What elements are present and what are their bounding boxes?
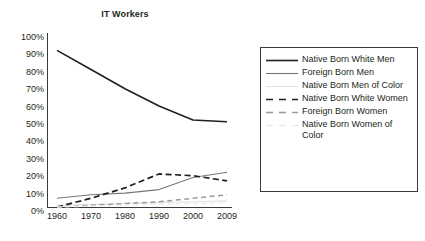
y-tick-label: 10% <box>0 190 44 199</box>
x-tick-label: 1980 <box>115 211 135 221</box>
legend-line-swatch <box>265 54 299 66</box>
x-tick-label: 2009 <box>217 211 237 221</box>
series-line <box>57 172 227 198</box>
y-tick-label: 90% <box>0 50 44 59</box>
legend-item[interactable]: Foreign Born Women <box>265 106 413 118</box>
legend-line-swatch <box>265 67 299 79</box>
legend-line-swatch <box>265 80 299 92</box>
series-line <box>57 50 227 121</box>
legend-line-swatch <box>265 93 299 105</box>
legend-line-swatch <box>265 106 299 118</box>
legend-item-label: Foreign Born Women <box>302 106 387 117</box>
y-tick-label: 100% <box>0 33 44 42</box>
x-axis-tick-labels: 196019701980199020002009 <box>47 211 232 227</box>
legend-item[interactable]: Native Born Women of Color <box>265 119 413 141</box>
legend-item-label: Foreign Born Men <box>302 67 374 78</box>
y-tick-label: 20% <box>0 172 44 181</box>
legend-item-label: Native Born Women of Color <box>302 119 413 141</box>
legend-item[interactable]: Native Born Men of Color <box>265 80 413 92</box>
x-tick-label: 1960 <box>47 211 67 221</box>
chart-legend: Native Born White MenForeign Born MenNat… <box>260 47 418 192</box>
legend-item-label: Native Born White Men <box>302 54 395 65</box>
y-tick-label: 60% <box>0 103 44 112</box>
y-tick-label: 30% <box>0 155 44 164</box>
chart-title: IT Workers <box>0 9 250 19</box>
y-tick-label: 40% <box>0 137 44 146</box>
legend-item[interactable]: Native Born White Women <box>265 93 413 105</box>
y-tick-label: 0% <box>0 207 44 216</box>
x-tick-label: 2000 <box>183 211 203 221</box>
x-tick-label: 1990 <box>149 211 169 221</box>
x-tick-label: 1970 <box>81 211 101 221</box>
legend-item-label: Native Born White Women <box>302 93 408 104</box>
plot-area <box>47 33 232 208</box>
y-tick-label: 80% <box>0 68 44 77</box>
y-tick-label: 50% <box>0 120 44 129</box>
legend-line-swatch <box>265 119 299 131</box>
y-tick-label: 70% <box>0 85 44 94</box>
legend-item[interactable]: Native Born White Men <box>265 54 413 66</box>
line-chart-svg <box>47 33 232 208</box>
data-series-group <box>57 50 227 207</box>
legend-item[interactable]: Foreign Born Men <box>265 67 413 79</box>
legend-item-label: Native Born Men of Color <box>302 80 403 91</box>
chart-figure: IT Workers 0%10%20%30%40%50%60%70%80%90%… <box>0 0 425 241</box>
